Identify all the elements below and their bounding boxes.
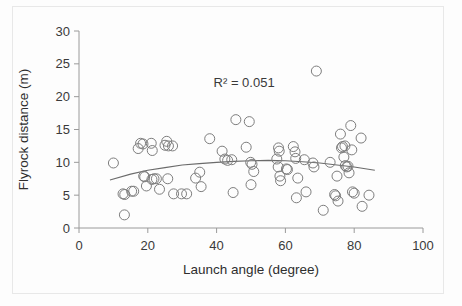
- data-point: [196, 182, 206, 192]
- data-point: [205, 134, 215, 144]
- data-point: [356, 133, 366, 143]
- data-point: [228, 188, 238, 198]
- x-tick-label: 40: [209, 238, 223, 253]
- data-point: [301, 187, 311, 197]
- data-point: [155, 184, 165, 194]
- data-point: [246, 180, 256, 190]
- x-tick-label: 0: [75, 238, 82, 253]
- data-point: [346, 121, 356, 131]
- data-point: [147, 146, 157, 156]
- r-squared-annotation: R² = 0.051: [214, 75, 275, 90]
- data-point: [291, 193, 301, 203]
- y-tick-label: 20: [56, 89, 70, 104]
- y-tick-label: 10: [56, 155, 70, 170]
- data-point: [163, 174, 173, 184]
- data-point: [129, 186, 139, 196]
- chart-figure: 051015202530020406080100Launch angle (de…: [0, 0, 462, 306]
- data-point: [357, 201, 367, 211]
- data-point: [249, 167, 259, 177]
- x-tick-label: 60: [278, 238, 292, 253]
- y-tick-label: 30: [56, 24, 70, 39]
- data-point: [335, 129, 345, 139]
- data-point: [108, 158, 118, 168]
- y-axis-title: Flyrock distance (m): [16, 69, 31, 191]
- y-tick-label: 25: [56, 56, 70, 71]
- scatter-plot: 051015202530020406080100Launch angle (de…: [0, 0, 462, 306]
- y-tick-label: 0: [63, 221, 70, 236]
- x-tick-label: 80: [347, 238, 361, 253]
- data-point: [241, 142, 251, 152]
- y-tick-label: 15: [56, 122, 70, 137]
- x-axis-title: Launch angle (degree): [183, 262, 319, 277]
- data-point: [325, 157, 335, 167]
- data-point: [288, 142, 298, 152]
- data-point: [332, 171, 342, 181]
- data-point: [244, 117, 254, 127]
- y-tick-label: 5: [63, 188, 70, 203]
- x-tick-label: 20: [141, 238, 155, 253]
- data-point: [364, 190, 374, 200]
- data-point: [141, 181, 151, 191]
- x-tick-label: 100: [412, 238, 434, 253]
- data-point: [311, 66, 321, 76]
- data-point: [293, 173, 303, 183]
- data-point: [169, 189, 179, 199]
- data-point: [318, 205, 328, 215]
- data-point: [119, 210, 129, 220]
- data-point: [231, 115, 241, 125]
